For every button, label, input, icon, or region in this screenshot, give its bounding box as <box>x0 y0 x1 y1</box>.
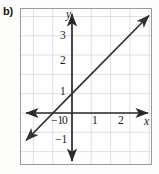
x-axis-label: x <box>144 116 149 128</box>
y-tick-label-1: 1 <box>60 86 66 98</box>
graph-canvas <box>21 9 152 165</box>
x-tick-label-1: 1 <box>92 115 98 127</box>
part-label: b) <box>3 6 13 17</box>
y-axis-label: y <box>66 9 71 21</box>
y-tick-label-2: 2 <box>60 55 66 67</box>
y-tick-label-neg-1: −1 <box>55 134 67 146</box>
x-tick-label-2: 2 <box>118 115 124 127</box>
x-tick-label-0: 0 <box>62 115 68 127</box>
plot-frame <box>20 8 152 165</box>
plotted-line-y-equals-x-plus-1 <box>26 16 149 141</box>
y-tick-label-3: 3 <box>60 30 66 42</box>
graph-figure: b) <box>0 0 159 174</box>
